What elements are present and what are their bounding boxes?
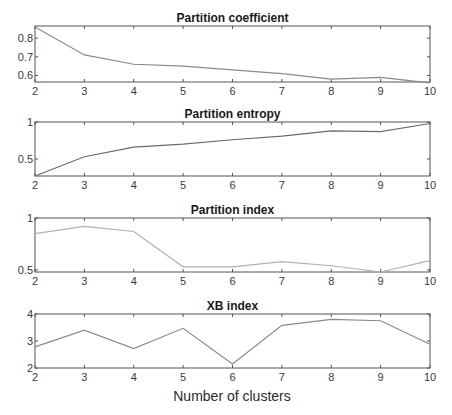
y-tick-label: 0.7 xyxy=(18,51,33,63)
axes-box xyxy=(35,26,430,82)
x-tick-label: 5 xyxy=(180,371,186,383)
x-tick-label: 3 xyxy=(81,85,87,97)
x-tick-label: 8 xyxy=(328,275,334,287)
x-tick-label: 4 xyxy=(131,275,137,287)
subplot-title: XB index xyxy=(207,299,259,313)
x-tick-label: 3 xyxy=(81,371,87,383)
x-tick-label: 8 xyxy=(328,179,334,191)
x-tick-label: 4 xyxy=(131,179,137,191)
x-tick-label: 10 xyxy=(424,179,436,191)
axes-box xyxy=(35,122,430,176)
x-tick-label: 2 xyxy=(32,179,38,191)
axes-box xyxy=(35,218,430,272)
x-tick-label: 9 xyxy=(378,179,384,191)
subplot-partition-entropy: Partition entropy23456789100.51 xyxy=(18,107,436,191)
y-tick-label: 0.5 xyxy=(18,153,33,165)
y-tick-label: 0.6 xyxy=(18,69,33,81)
x-tick-label: 5 xyxy=(180,85,186,97)
x-tick-label: 5 xyxy=(180,179,186,191)
x-tick-label: 2 xyxy=(32,275,38,287)
y-tick-label: 0.5 xyxy=(18,264,33,276)
x-tick-label: 7 xyxy=(279,275,285,287)
x-tick-label: 7 xyxy=(279,371,285,383)
x-tick-label: 3 xyxy=(81,179,87,191)
x-tick-label: 8 xyxy=(328,85,334,97)
subplot-title: Partition index xyxy=(191,203,275,217)
y-tick-label: 1 xyxy=(27,116,33,128)
x-axis-label: Number of clusters xyxy=(173,388,290,404)
x-tick-label: 6 xyxy=(229,85,235,97)
axes-box xyxy=(35,314,430,368)
x-tick-label: 3 xyxy=(81,275,87,287)
x-tick-label: 5 xyxy=(180,275,186,287)
data-line xyxy=(35,319,430,364)
y-tick-label: 4 xyxy=(27,308,33,320)
x-tick-label: 6 xyxy=(229,179,235,191)
x-tick-label: 9 xyxy=(378,85,384,97)
y-tick-label: 1 xyxy=(27,212,33,224)
x-tick-label: 4 xyxy=(131,371,137,383)
x-tick-label: 10 xyxy=(424,275,436,287)
y-tick-label: 0.8 xyxy=(18,32,33,44)
y-tick-label: 2 xyxy=(27,362,33,374)
subplot-partition-index: Partition index23456789100.51 xyxy=(18,203,436,287)
data-line xyxy=(35,123,430,176)
subplot-title: Partition entropy xyxy=(184,107,280,121)
data-line xyxy=(35,226,430,272)
figure: Partition coefficient23456789100.60.70.8… xyxy=(0,0,452,415)
subplot-partition-coefficient: Partition coefficient23456789100.60.70.8 xyxy=(18,11,436,97)
y-tick-label: 3 xyxy=(27,335,33,347)
x-tick-label: 10 xyxy=(424,85,436,97)
x-tick-label: 7 xyxy=(279,85,285,97)
x-tick-label: 6 xyxy=(229,275,235,287)
data-line xyxy=(35,27,430,83)
subplot-xb-index: XB index2345678910234 xyxy=(27,299,436,383)
x-tick-label: 6 xyxy=(229,371,235,383)
x-tick-label: 8 xyxy=(328,371,334,383)
x-tick-label: 10 xyxy=(424,371,436,383)
x-tick-label: 7 xyxy=(279,179,285,191)
x-tick-label: 4 xyxy=(131,85,137,97)
x-tick-label: 9 xyxy=(378,371,384,383)
subplot-title: Partition coefficient xyxy=(176,11,288,25)
x-tick-label: 2 xyxy=(32,85,38,97)
x-tick-label: 9 xyxy=(378,275,384,287)
